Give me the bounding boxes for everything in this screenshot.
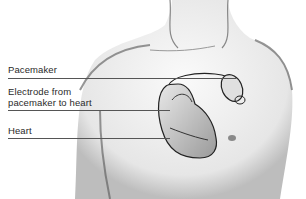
nipple xyxy=(228,135,236,141)
anatomical-illustration: Pacemaker Electrode from pacemaker to he… xyxy=(0,0,306,199)
label-electrode-line1: Electrode from xyxy=(8,86,71,97)
leader-line-heart xyxy=(8,138,170,139)
label-heart: Heart xyxy=(8,125,32,136)
leader-line-pacemaker xyxy=(8,78,236,79)
leader-line-electrode xyxy=(8,110,170,111)
label-electrode-line2: pacemaker to heart xyxy=(8,97,92,108)
label-pacemaker: Pacemaker xyxy=(8,64,57,75)
